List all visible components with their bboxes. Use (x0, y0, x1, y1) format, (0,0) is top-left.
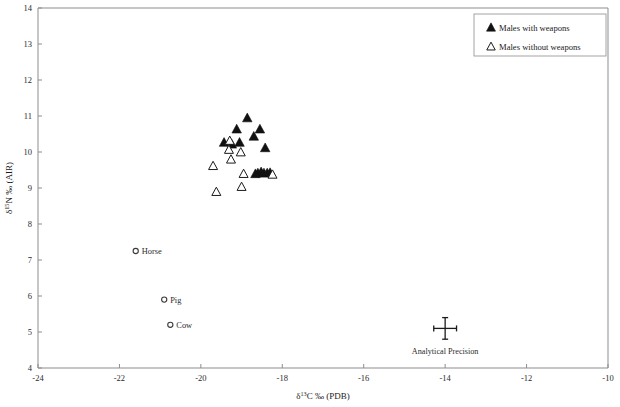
data-point (239, 169, 248, 177)
data-point (225, 136, 234, 144)
y-tick-label: 5 (28, 327, 32, 337)
chart-legend: Males with weaponsMales without weapons (474, 14, 606, 56)
x-tick-label: -14 (439, 373, 451, 383)
y-axis-ticks: 4567891011121314 (24, 3, 43, 373)
x-axis-title: δ13C ‰ (PDB) (296, 390, 349, 401)
data-point (212, 187, 221, 195)
reference-point-label: Cow (176, 321, 193, 330)
y-tick-label: 12 (24, 75, 33, 85)
y-tick-label: 14 (24, 3, 33, 13)
y-tick-label: 11 (24, 111, 32, 121)
reference-point-label: Pig (170, 296, 182, 305)
reference-point-label: Horse (142, 247, 162, 256)
x-tick-label: -16 (358, 373, 369, 383)
y-tick-label: 13 (24, 39, 33, 49)
data-point (226, 155, 235, 163)
analytical-precision-label: Analytical Precision (412, 347, 479, 356)
reference-point: Cow (168, 321, 193, 330)
y-tick-label: 7 (28, 255, 32, 265)
y-tick-label: 4 (28, 363, 33, 373)
scatter-plot: -24-22-20-18-16-14-12-10 456789101112131… (0, 0, 620, 407)
reference-points: HorsePigCow (133, 247, 193, 330)
chart-container: -24-22-20-18-16-14-12-10 456789101112131… (0, 0, 620, 407)
y-tick-label: 6 (28, 291, 32, 301)
data-point (236, 148, 245, 156)
y-axis-title-group: δ15N ‰ (AIR) (3, 162, 14, 214)
data-point (209, 161, 218, 169)
open-circle-icon (133, 248, 138, 253)
data-point (232, 124, 242, 133)
data-series (209, 113, 277, 195)
x-tick-label: -24 (32, 373, 44, 383)
x-axis-ticks: -24-22-20-18-16-14-12-10 (32, 364, 613, 383)
legend-item[interactable]: Males with weapons (487, 23, 571, 33)
axes (38, 8, 608, 368)
y-axis-title: δ15N ‰ (AIR) (3, 162, 14, 214)
data-point (237, 182, 246, 190)
annotations: Analytical Precision (412, 318, 479, 357)
data-point (260, 143, 270, 152)
reference-point: Horse (133, 247, 162, 256)
y-tick-label: 8 (28, 219, 32, 229)
x-tick-label: -10 (602, 373, 613, 383)
legend-item-label: Males with weapons (499, 23, 570, 33)
reference-point: Pig (162, 296, 183, 305)
legend-item-label: Males without weapons (499, 42, 581, 52)
analytical-precision-marker: Analytical Precision (412, 318, 479, 357)
axis-spines (38, 8, 608, 368)
data-point (255, 124, 265, 133)
series-filled-triangle (219, 113, 275, 178)
open-circle-icon (168, 322, 173, 327)
x-tick-label: -22 (114, 373, 125, 383)
y-tick-label: 10 (24, 147, 33, 157)
open-circle-icon (162, 297, 167, 302)
axis-titles: δ13C ‰ (PDB)δ15N ‰ (AIR) (3, 162, 350, 401)
data-point (235, 138, 245, 147)
y-tick-label: 9 (28, 183, 32, 193)
x-tick-label: -12 (521, 373, 532, 383)
data-point (243, 113, 253, 122)
x-tick-label: -20 (195, 373, 206, 383)
legend-item[interactable]: Males without weapons (487, 42, 582, 52)
x-tick-label: -18 (277, 373, 288, 383)
